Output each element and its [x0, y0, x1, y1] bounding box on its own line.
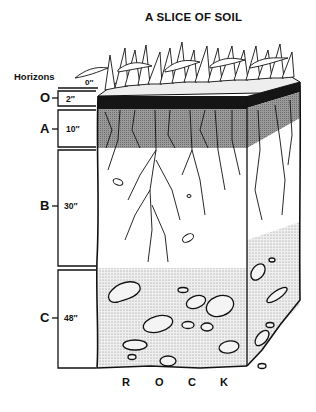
horizon-a-depth: 10″: [66, 124, 80, 134]
soil-block: [97, 76, 300, 369]
o-horizon-front: [98, 96, 247, 109]
surface-depth-label: 0″: [85, 78, 93, 87]
horizons-label: Horizons: [14, 71, 55, 82]
a-horizon-front: [98, 108, 247, 148]
rock-letter-k: K: [220, 376, 228, 388]
horizon-o-depth: 2″: [66, 94, 75, 104]
horizon-a-letter: A: [40, 121, 49, 136]
rock-letter-r: R: [122, 376, 130, 388]
diagram-title: A SLICE OF SOIL: [145, 11, 242, 23]
b-horizon-front: [98, 148, 247, 268]
rock-letter-o: O: [155, 376, 164, 388]
horizon-o-letter: O: [40, 90, 50, 105]
horizon-b-depth: 30″: [64, 201, 78, 211]
horizon-c-depth: 48″: [64, 313, 78, 323]
horizon-b-letter: B: [40, 198, 49, 213]
bracket-o: [58, 91, 96, 106]
rock-letter-c: C: [188, 376, 196, 388]
horizon-c-letter: C: [40, 310, 49, 325]
